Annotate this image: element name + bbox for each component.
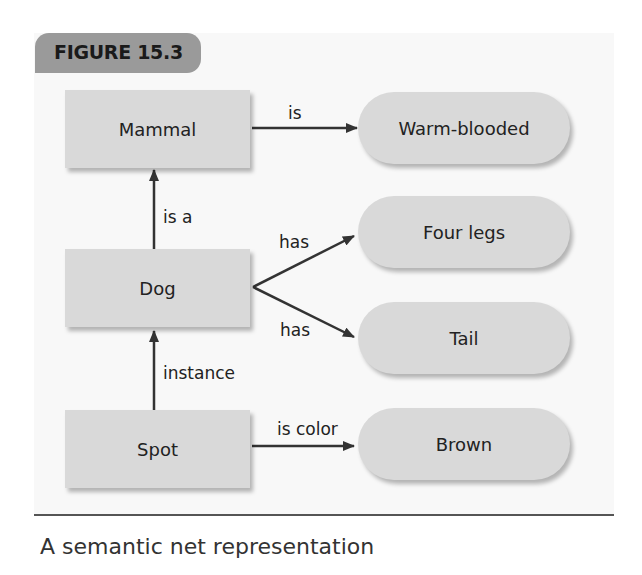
caption-divider <box>34 514 614 516</box>
node-mammal: Mammal <box>65 90 250 168</box>
node-dog-label: Dog <box>139 278 175 299</box>
edge-label-is-color: is color <box>277 419 338 439</box>
node-four-legs-label: Four legs <box>423 222 505 243</box>
node-mammal-label: Mammal <box>119 119 197 140</box>
edge-label-is-a: is a <box>163 207 192 227</box>
edge-label-instance: instance <box>163 363 235 383</box>
edge-label-is: is <box>288 103 302 123</box>
node-spot-label: Spot <box>137 439 178 460</box>
node-tail-label: Tail <box>449 328 478 349</box>
node-warm-blooded: Warm-blooded <box>358 92 570 164</box>
node-tail: Tail <box>358 302 570 374</box>
edge-label-has-tail: has <box>280 320 310 340</box>
node-spot: Spot <box>65 410 250 488</box>
node-brown-label: Brown <box>436 434 493 455</box>
node-warm-blooded-label: Warm-blooded <box>398 118 529 139</box>
figure-caption: A semantic net representation <box>40 534 374 559</box>
node-brown: Brown <box>358 408 570 480</box>
node-dog: Dog <box>65 249 250 327</box>
edge-label-has-legs: has <box>279 232 309 252</box>
node-four-legs: Four legs <box>358 196 570 268</box>
